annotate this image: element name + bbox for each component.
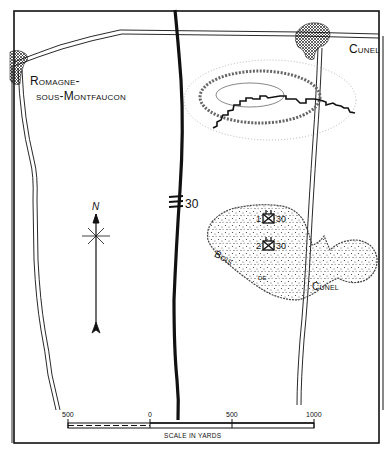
road-west <box>12 66 60 443</box>
romagne-line1: Romagne- <box>30 74 126 89</box>
scale-tick-500-left: 500 <box>62 411 74 418</box>
unit-2-number: 2 <box>256 241 261 251</box>
label-romagne: Romagne- sous-Montfaucon <box>30 74 126 104</box>
unit-1-division: 30 <box>276 214 286 224</box>
north-label: N <box>92 201 99 212</box>
label-wood-cunel: Cunel <box>312 281 339 292</box>
scale-bar <box>68 419 314 428</box>
romagne-line2: sous-Montfaucon <box>30 89 126 104</box>
scale-tick-500-right: 500 <box>226 411 238 418</box>
scale-tick-0: 0 <box>148 411 152 418</box>
hill-hachures <box>184 60 356 140</box>
scale-title: SCALE IN YARDS <box>164 432 221 439</box>
bois-de-cunel <box>208 205 378 300</box>
cunel-village <box>295 23 330 60</box>
scale-tick-1000: 1000 <box>306 411 322 418</box>
label-de: de <box>258 272 267 282</box>
label-cunel: Cunel <box>349 42 380 56</box>
division-boundary <box>174 10 182 420</box>
map-canvas <box>0 0 391 453</box>
unit-1-number: 1 <box>256 214 261 224</box>
north-arrow-icon <box>82 214 110 333</box>
boundary-number: 30 <box>185 197 198 211</box>
unit-2-division: 30 <box>276 241 286 251</box>
